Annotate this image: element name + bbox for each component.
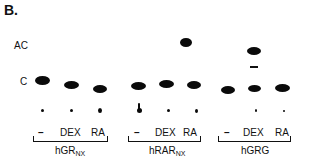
bracket-group3: [218, 136, 291, 142]
origin-lane9: [283, 110, 285, 112]
spot-c-lane6: [187, 81, 201, 89]
spot-c-lane7: [221, 86, 235, 94]
row-label-ac: AC: [14, 40, 28, 51]
origin-lane4: [137, 108, 142, 113]
origin-lane6: [195, 109, 198, 113]
group-label-1: hGRNX: [55, 145, 85, 157]
group-label-3: hGRG: [241, 145, 269, 157]
spot-ac-minor-hgrg-dex: [250, 66, 258, 68]
spot-c-lane2: [64, 81, 79, 89]
bracket-group1: [33, 136, 108, 142]
spot-ac-hgrg-dex: [247, 47, 261, 55]
origin-lane1: [41, 109, 44, 112]
origin-lane2: [70, 109, 73, 112]
origin-lane8: [255, 109, 257, 112]
spot-c-lane9: [275, 84, 290, 92]
origin-lane3: [98, 108, 102, 113]
row-label-c: C: [20, 76, 27, 87]
group-label-2: hRARNX: [149, 145, 185, 157]
spot-c-lane1: [35, 76, 50, 85]
spot-ac-hrar-ra: [180, 38, 192, 47]
spot-c-lane3: [93, 85, 107, 93]
spot-c-lane4: [131, 82, 146, 90]
origin-lane5: [167, 109, 170, 112]
spot-c-lane5: [159, 80, 174, 88]
spot-c-lane8: [248, 85, 261, 92]
bracket-group2: [128, 136, 201, 142]
panel-label: B.: [4, 2, 18, 18]
